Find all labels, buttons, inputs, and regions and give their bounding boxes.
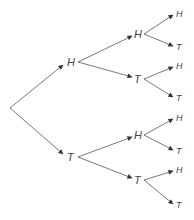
leaf-label-t: T — [176, 146, 183, 156]
branch-arrow-level1 — [10, 108, 63, 154]
probability-tree-diagram: HTHTHTHTHTHTHT — [0, 0, 194, 220]
branch-arrow-level3 — [144, 67, 173, 79]
node-label-t: T — [134, 174, 142, 186]
branch-arrow-level2 — [78, 137, 132, 157]
leaf-label-t: T — [176, 200, 183, 210]
branch-arrow-level3 — [144, 119, 173, 135]
leaf-label-h: H — [176, 9, 183, 19]
branch-arrow-level3 — [144, 34, 173, 46]
node-label-t: T — [134, 73, 142, 85]
branch-arrow-level3 — [144, 180, 173, 204]
node-label-h: H — [134, 28, 142, 40]
leaf-label-t: T — [176, 42, 183, 52]
branch-arrow-level3 — [144, 15, 173, 34]
node-label-h: H — [134, 129, 142, 141]
branch-arrow-level3 — [144, 135, 173, 150]
branch-arrow-level2 — [78, 62, 132, 77]
branch-arrow-level2 — [78, 157, 132, 178]
branch-arrow-level1 — [10, 65, 63, 108]
tree-edges — [10, 15, 173, 204]
leaf-label-h: H — [176, 113, 183, 123]
branch-arrow-level3 — [144, 171, 173, 180]
leaf-label-t: T — [176, 93, 183, 103]
node-label-t: T — [67, 151, 75, 163]
leaf-label-h: H — [176, 61, 183, 71]
branch-arrow-level2 — [78, 36, 132, 62]
leaf-label-h: H — [176, 165, 183, 175]
branch-arrow-level3 — [144, 79, 173, 97]
node-label-h: H — [67, 56, 75, 68]
